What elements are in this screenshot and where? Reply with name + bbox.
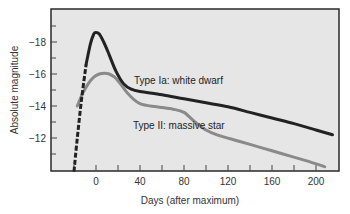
x-tick-label: 200 — [308, 176, 325, 187]
annotation-type-ia: Type Ia: white dwarf — [134, 75, 223, 86]
y-tick-label: −14 — [29, 101, 46, 112]
x-tick-label: 40 — [134, 176, 146, 187]
y-tick-label: −18 — [29, 37, 46, 48]
x-tick-label: 80 — [178, 176, 190, 187]
x-tick-label: 0 — [93, 176, 99, 187]
x-tick-label: 120 — [220, 176, 237, 187]
x-tick-label: 160 — [264, 176, 281, 187]
y-axis-title: Absolute magnitude — [9, 45, 20, 134]
supernova-light-curve-chart: −18 −16 −14 −12 0 40 80 120 160 200 Days… — [0, 0, 350, 214]
y-tick-label: −12 — [29, 133, 46, 144]
y-tick-label: −16 — [29, 69, 46, 80]
x-axis-title: Days (after maximum) — [141, 195, 239, 206]
annotation-type-ii: Type II: massive star — [133, 120, 225, 131]
